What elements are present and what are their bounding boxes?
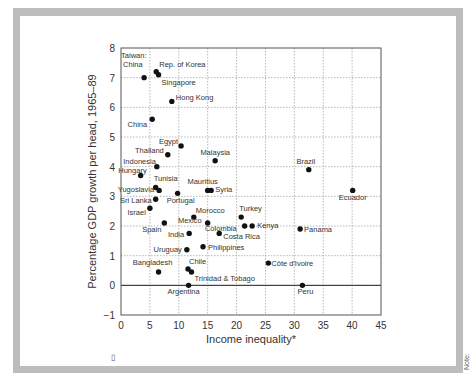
point-label: Hong Kong <box>176 93 214 102</box>
x-tick-label: 25 <box>260 320 272 331</box>
point-label: Yugoslavia <box>118 185 155 194</box>
data-point <box>156 188 161 193</box>
x-tick-label: 40 <box>347 320 359 331</box>
data-point <box>238 214 243 219</box>
point-label: Peru <box>298 287 314 296</box>
point-label: Portugal <box>167 196 195 205</box>
point-label: Rep. of Korea <box>159 60 206 69</box>
scatter-chart: 051015202530354045 −1012345678 Taiwan:Ch… <box>0 0 476 392</box>
point-label: Costa Rica <box>223 232 261 241</box>
point-label: Côte d'Ivoire <box>271 259 313 268</box>
y-axis-title: Percentage GDP growth per head, 1965–89 <box>86 74 98 288</box>
point-label: Malaysia <box>200 148 230 157</box>
data-point <box>306 167 311 172</box>
point-label: Tunisia <box>154 174 179 183</box>
y-tick-label: 5 <box>109 132 115 143</box>
point-label: Brazil <box>296 157 315 166</box>
y-tick-label: 3 <box>109 191 115 202</box>
x-tick-label: 10 <box>173 320 185 331</box>
data-point <box>150 117 155 122</box>
point-label: Philippines <box>208 243 245 252</box>
data-point <box>153 197 158 202</box>
data-point <box>156 72 161 77</box>
data-point <box>212 158 217 163</box>
point-label: Singapore <box>162 78 196 87</box>
x-tick-label: 30 <box>289 320 301 331</box>
data-point <box>175 191 180 196</box>
data-point <box>350 188 355 193</box>
x-axis-title: Income inequality* <box>206 333 297 345</box>
data-point <box>162 220 167 225</box>
point-label: Chile <box>189 257 206 266</box>
x-tick-label: 5 <box>147 320 153 331</box>
data-point <box>297 226 302 231</box>
data-point <box>156 269 161 274</box>
point-label: Uruguay <box>154 245 183 254</box>
point-label: India <box>168 230 185 239</box>
data-point <box>169 99 174 104</box>
footnote-marker: ▯ <box>111 353 115 362</box>
point-label: Mexico <box>178 216 202 225</box>
data-points: Taiwan:ChinaRep. of KoreaSingaporeHong K… <box>118 51 367 297</box>
y-tick-label: 8 <box>109 43 115 54</box>
data-point <box>208 188 213 193</box>
data-point <box>186 231 191 236</box>
point-label: Argentina <box>168 287 201 296</box>
point-label: Bangladesh <box>133 258 173 267</box>
y-tick-label: 1 <box>109 251 115 262</box>
data-point <box>242 223 247 228</box>
data-point <box>200 244 205 249</box>
data-point <box>184 247 189 252</box>
point-label: China <box>128 120 148 129</box>
point-label: Hungary <box>118 166 147 175</box>
data-point <box>147 206 152 211</box>
x-tick-label: 15 <box>202 320 214 331</box>
data-point <box>141 75 146 80</box>
point-label: Taiwan: <box>121 51 146 60</box>
y-axis-ticks: −1012345678 <box>104 43 116 321</box>
y-tick-label: 0 <box>109 280 115 291</box>
data-point <box>189 269 194 274</box>
data-point <box>266 260 271 265</box>
y-tick-label: 4 <box>109 162 115 173</box>
point-label: Panama <box>304 225 333 234</box>
point-label: Egypt <box>159 137 179 146</box>
x-tick-label: 20 <box>231 320 243 331</box>
point-label: Trinidad & Tobago <box>194 274 254 283</box>
point-label: Spain <box>142 225 161 234</box>
x-tick-label: 0 <box>118 320 124 331</box>
point-label: Syria <box>215 185 233 194</box>
point-label: Sri Lanka <box>120 196 153 205</box>
y-tick-label: 6 <box>109 102 115 113</box>
point-label: Mauritius <box>187 177 218 186</box>
point-label: Turkey <box>239 204 262 213</box>
y-tick-label: −1 <box>104 310 116 321</box>
point-label: Thailand <box>135 146 164 155</box>
data-point <box>217 231 222 236</box>
point-label: China <box>123 60 143 69</box>
point-label: Indonesia <box>123 157 156 166</box>
point-label: Israel <box>128 208 147 217</box>
y-tick-label: 2 <box>109 221 115 232</box>
side-note: Note: <box>463 353 470 370</box>
data-point <box>165 152 170 157</box>
x-axis-ticks: 051015202530354045 <box>118 320 387 331</box>
point-label: Kenya <box>257 221 279 230</box>
y-tick-label: 7 <box>109 73 115 84</box>
point-label: Ecuador <box>339 193 367 202</box>
x-tick-label: 35 <box>318 320 330 331</box>
point-label: Morocco <box>196 206 225 215</box>
data-point <box>249 223 254 228</box>
data-point <box>178 143 183 148</box>
x-tick-label: 45 <box>375 320 387 331</box>
